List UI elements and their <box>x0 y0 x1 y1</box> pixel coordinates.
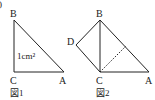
area-label: 1cm² <box>17 51 35 61</box>
figure-2: B C A D 図2 <box>67 8 153 98</box>
vertex-label-d: D <box>67 36 74 47</box>
figure-1: B C A 1cm² 図1 <box>10 8 67 98</box>
triangle-abc-2 <box>100 20 149 72</box>
diagram-canvas: ) B C A 1cm² 図1 B C A D 図2 <box>0 0 155 100</box>
triangle-abc <box>14 20 64 72</box>
figures-svg: ) B C A 1cm² 図1 B C A D 図2 <box>0 0 155 100</box>
dashed-line <box>100 46 126 72</box>
vertex-label-a: A <box>59 75 67 86</box>
stray-mark: ) <box>0 0 2 9</box>
vertex-label-c-2: C <box>96 75 103 86</box>
vertex-label-b: B <box>10 8 17 19</box>
figure-caption-2: 図2 <box>96 88 110 98</box>
vertex-label-b-2: B <box>96 8 103 19</box>
vertex-label-a-2: A <box>145 75 153 86</box>
figure-caption-1: 図1 <box>10 88 24 98</box>
vertex-label-c: C <box>10 75 17 86</box>
triangle-bdc <box>76 20 100 72</box>
